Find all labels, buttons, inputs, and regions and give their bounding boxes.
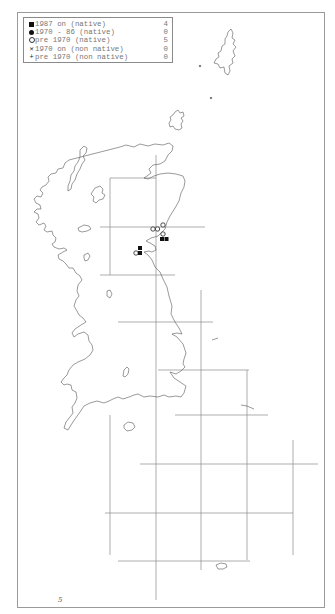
legend-count: 4 [156, 20, 168, 28]
legend-count: 0 [156, 45, 168, 53]
page-mark: 5 [58, 596, 62, 604]
record-filled-square [165, 237, 169, 241]
legend-label: pre 1970 (non native) [35, 53, 156, 61]
legend-label: 1970 on (non native) [35, 45, 156, 53]
legend-count: 0 [156, 28, 168, 36]
legend-count: 5 [156, 36, 168, 44]
filled-square-icon [28, 22, 35, 27]
legend-row-1970-86-native: 1970 - 86 (native) 0 [28, 28, 168, 36]
map-legend: 1987 on (native) 4 1970 - 86 (native) 0 … [23, 17, 173, 63]
cross-icon: ✕ [28, 45, 35, 53]
legend-label: 1987 on (native) [35, 20, 156, 28]
record-open-circle [161, 232, 165, 236]
record-markers [134, 223, 169, 255]
open-circle-icon [28, 37, 35, 43]
record-open-circle [151, 227, 155, 231]
legend-count: 0 [156, 53, 168, 61]
record-open-circle [155, 227, 159, 231]
record-filled-square [138, 251, 142, 255]
grid-lines [100, 155, 318, 600]
plus-icon: + [28, 53, 35, 61]
record-open-circle [134, 251, 138, 255]
record-open-circle [161, 223, 165, 227]
legend-row-1987-on-native: 1987 on (native) 4 [28, 20, 168, 28]
legend-row-1970-on-non-native: ✕ 1970 on (non native) 0 [28, 45, 168, 53]
filled-circle-icon [28, 30, 35, 35]
legend-row-pre-1970-native: pre 1970 (native) 5 [28, 36, 168, 44]
legend-label: pre 1970 (native) [35, 36, 156, 44]
distribution-map [0, 0, 335, 614]
legend-row-pre-1970-non-native: + pre 1970 (non native) 0 [28, 53, 168, 61]
record-filled-square [138, 246, 142, 250]
coastline [34, 29, 254, 569]
legend-label: 1970 - 86 (native) [35, 28, 156, 36]
record-filled-square [160, 237, 164, 241]
